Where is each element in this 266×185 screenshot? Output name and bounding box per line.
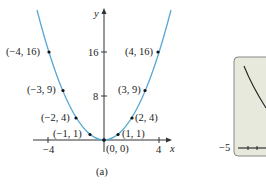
x-tick-label-4: 4	[156, 144, 162, 155]
point-4-16	[156, 50, 159, 53]
point-label: (−1, 1)	[53, 128, 82, 140]
point-label: (3, 9)	[118, 84, 141, 96]
screen-frame	[234, 57, 266, 156]
point-neg2-4	[74, 116, 77, 119]
point-3-9	[143, 89, 146, 92]
point-label: (−2, 4)	[41, 112, 70, 124]
point-label: (1, 1)	[122, 128, 145, 140]
point-label: (2, 4)	[135, 112, 158, 124]
point-label: (−4, 16)	[6, 46, 40, 58]
y-axis-arrow-icon	[102, 8, 107, 14]
point-label: (−3, 9)	[27, 84, 56, 96]
point-2-4	[130, 116, 133, 119]
point-label: (0, 0)	[106, 143, 129, 155]
x-axis-label: x	[169, 143, 175, 154]
calculator-screen-panel: −5	[219, 57, 266, 156]
point-neg1-1	[88, 133, 91, 136]
point-label: (4, 16)	[125, 46, 153, 58]
point-0-0	[102, 138, 106, 142]
point-neg4-16	[47, 50, 50, 53]
y-axis-label: y	[93, 8, 99, 19]
point-1-1	[116, 133, 119, 136]
y-tick-label-16: 16	[88, 47, 99, 58]
screen-tick-label: −5	[219, 142, 230, 153]
figure-caption: (a)	[96, 166, 108, 178]
x-axis-arrow-icon	[166, 138, 172, 143]
x-tick-label-neg4: −4	[43, 144, 55, 155]
y-tick-label-8: 8	[93, 91, 98, 102]
point-neg3-9	[61, 89, 64, 92]
parabola-figure: −4 4 16 8 x y (−4, 16) (−3, 9) (−2, 4) (…	[0, 0, 266, 185]
